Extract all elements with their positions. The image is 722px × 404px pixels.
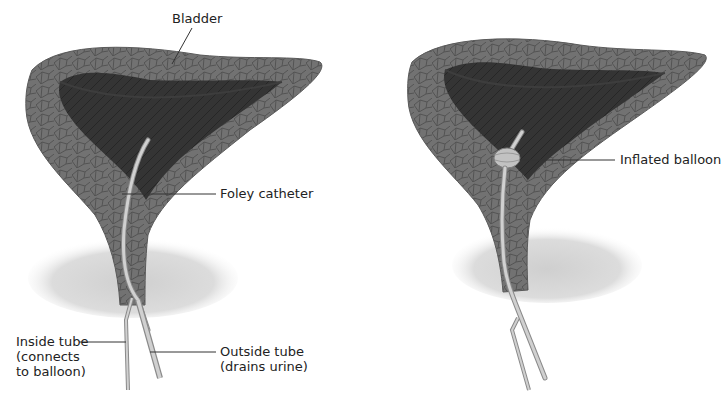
illustration xyxy=(0,0,722,404)
label-bladder: Bladder xyxy=(172,11,222,26)
label-foley-catheter: Foley catheter xyxy=(220,186,313,201)
prostate-shadow xyxy=(452,227,642,303)
label-outside-tube: Outside tube (drains urine) xyxy=(220,344,308,374)
label-inside-tube: Inside tube (connects to balloon) xyxy=(16,334,88,379)
foley-catheter-diagram: Bladder Foley catheter Inside tube (conn… xyxy=(0,0,722,404)
label-inflated-balloon: Inflated balloon xyxy=(620,152,721,167)
right-panel xyxy=(408,39,707,390)
inflated-balloon xyxy=(494,148,520,168)
